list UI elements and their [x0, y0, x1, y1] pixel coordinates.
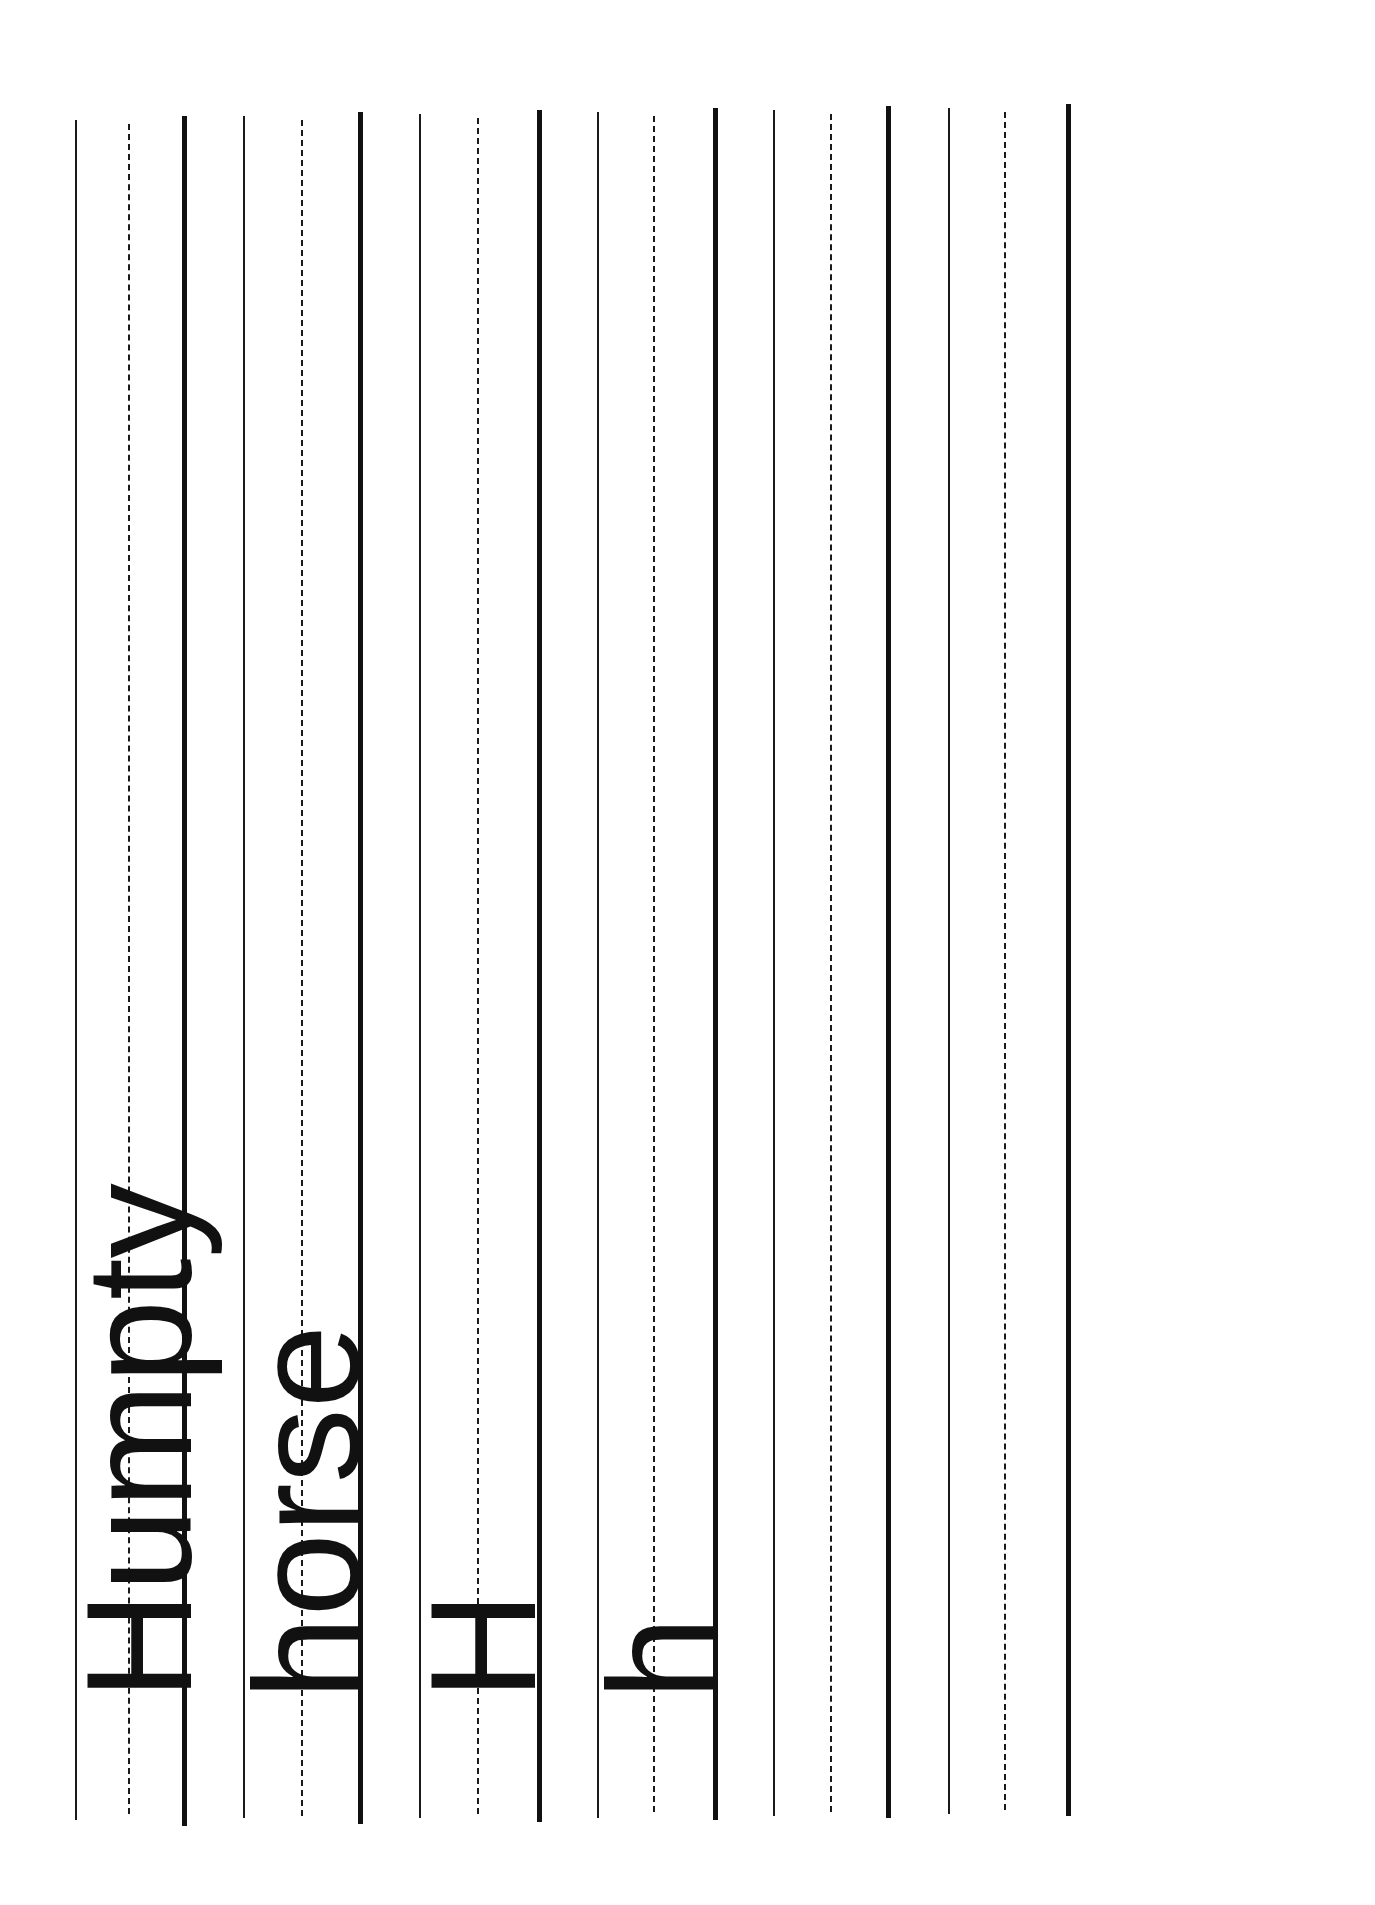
top-line — [948, 108, 950, 1814]
model-letter-uppercase-h: H — [408, 1500, 558, 1700]
baseline — [886, 106, 891, 1818]
model-word-humpty: Humpty — [64, 1000, 214, 1700]
model-letter-lowercase-h: h — [586, 1500, 736, 1700]
midline-dashed — [830, 114, 832, 1812]
model-word-horse: horse — [232, 1100, 382, 1700]
handwriting-worksheet: Humpty horse H h — [0, 0, 1375, 1905]
baseline — [1066, 104, 1071, 1816]
top-line — [773, 110, 775, 1816]
midline-dashed — [1004, 112, 1006, 1810]
